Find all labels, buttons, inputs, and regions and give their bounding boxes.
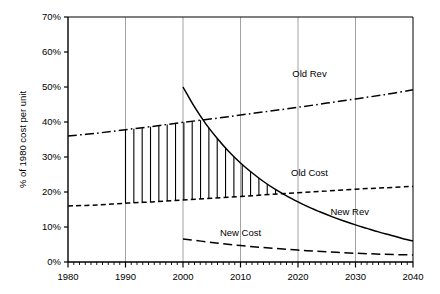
y-tick-label: 50% <box>42 81 62 92</box>
x-tick-label: 1990 <box>115 271 136 282</box>
x-tick-label: 2040 <box>402 271 423 282</box>
x-tick-label: 2000 <box>172 271 193 282</box>
y-tick-label: 40% <box>42 116 62 127</box>
y-tick-label: 20% <box>42 186 62 197</box>
y-tick-label: 10% <box>42 221 62 232</box>
chart-canvas: 0%10%20%30%40%50%60%70%19801990200020102… <box>0 0 440 294</box>
series-label-new-rev: New Rev <box>330 206 369 217</box>
series-label-old-cost: Old Cost <box>291 167 328 178</box>
y-tick-label: 30% <box>42 151 62 162</box>
y-tick-label: 60% <box>42 46 62 57</box>
y-tick-label: 70% <box>42 11 62 22</box>
y-tick-label: 0% <box>47 256 61 267</box>
x-tick-label: 2020 <box>287 271 308 282</box>
y-axis-title: % of 1980 cost per unit <box>17 91 28 189</box>
series-label-old-rev: Old Rev <box>292 68 327 79</box>
series-label-new-cost: New Cost <box>220 227 262 238</box>
hatch-region <box>126 120 276 203</box>
chart-container: 0%10%20%30%40%50%60%70%19801990200020102… <box>0 0 440 294</box>
x-tick-label: 2030 <box>345 271 366 282</box>
x-tick-label: 2010 <box>230 271 251 282</box>
x-tick-label: 1980 <box>57 271 78 282</box>
